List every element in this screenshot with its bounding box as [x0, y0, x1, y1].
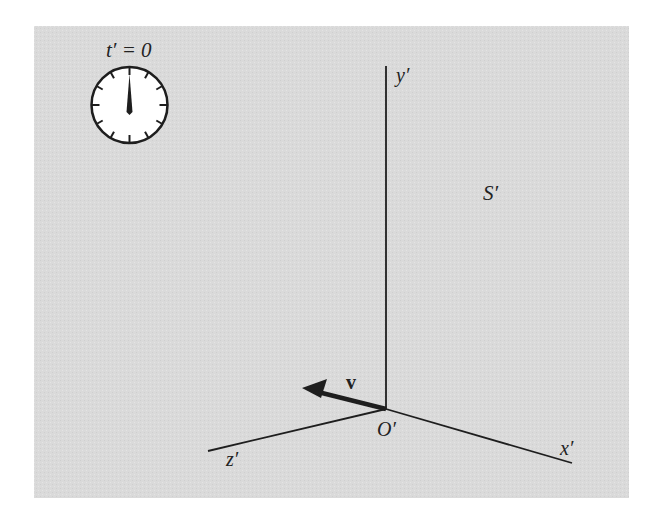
y-axis-label: y′: [394, 64, 410, 87]
frame-label: S′: [483, 181, 499, 205]
z-axis-label: z′: [225, 448, 239, 470]
reference-frame-diagram: t′ = 0 v y′ x′ z′ O′ S′: [0, 0, 658, 509]
velocity-label: v: [346, 371, 356, 393]
clock-time-label: t′ = 0: [106, 38, 152, 62]
x-axis-label: x′: [559, 437, 574, 459]
origin-label: O′: [377, 418, 396, 440]
